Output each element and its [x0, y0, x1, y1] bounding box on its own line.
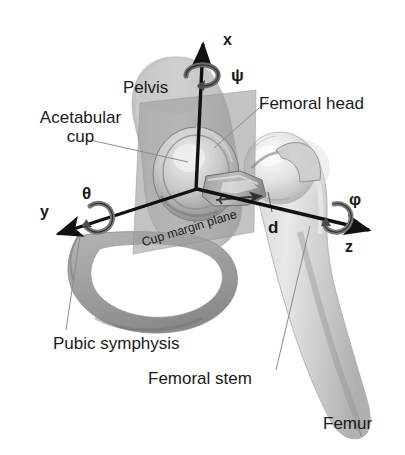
label-femur: Femur [323, 414, 372, 433]
rotation-label-phi: φ [349, 190, 361, 209]
label-femoral-stem: Femoral stem [148, 369, 252, 388]
label-femoral-head: Femoral head [259, 94, 364, 113]
hip-joint-diagram: Pelvis Acetabular cup Femoral head Pubic… [0, 0, 405, 455]
rotation-label-psi: ψ [231, 66, 244, 85]
axis-label-x: x [223, 31, 232, 49]
label-acetabular-cup: Acetabular cup [18, 108, 143, 146]
measurement-label-d: d [268, 218, 278, 237]
label-pelvis: Pelvis [123, 78, 168, 97]
label-acetabular-cup-line1: Acetabular [18, 108, 143, 127]
label-acetabular-cup-line2: cup [18, 127, 143, 146]
axis-label-y: y [40, 203, 49, 221]
axis-label-z: z [345, 238, 353, 256]
rotation-label-theta: θ [82, 184, 91, 203]
label-pubic-symphysis: Pubic symphysis [53, 334, 180, 353]
